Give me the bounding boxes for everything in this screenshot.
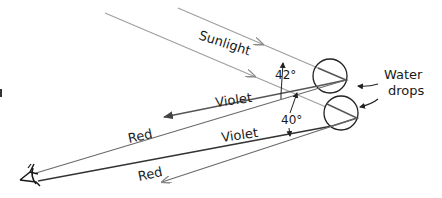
water-drops-pointers: [358, 84, 378, 107]
sunlight-label: Sunlight: [197, 28, 253, 59]
edge-mark: [0, 89, 2, 97]
upper-drop-internal-ray: [318, 68, 346, 86]
diagram-canvas: Sunlight 42° 40° Violet Violet Red Red W…: [0, 0, 442, 198]
eye-icon: [20, 164, 40, 186]
sun-ray-lower: [105, 13, 326, 107]
angle-42-label: 42°: [275, 68, 296, 82]
sunlight-rays: [105, 8, 326, 107]
red-ray-lower: [162, 118, 357, 182]
rainbow-diagram: Sunlight 42° 40° Violet Violet Red Red W…: [0, 0, 442, 198]
drops-label: drops: [388, 83, 425, 98]
exit-rays: [36, 80, 357, 182]
violet-label-lower: Violet: [220, 125, 259, 145]
violet-ray-to-eye: [38, 126, 332, 181]
angle-40-arrow-down: [289, 128, 290, 136]
angle-40-label: 40°: [281, 113, 302, 127]
pointer-lower: [360, 99, 378, 107]
red-label-lower: Red: [137, 164, 164, 184]
pointer-upper: [358, 84, 378, 86]
water-label: Water: [384, 67, 423, 82]
violet-label-upper: Violet: [214, 90, 253, 110]
red-label-upper: Red: [127, 126, 154, 146]
lower-drop: [324, 96, 358, 130]
